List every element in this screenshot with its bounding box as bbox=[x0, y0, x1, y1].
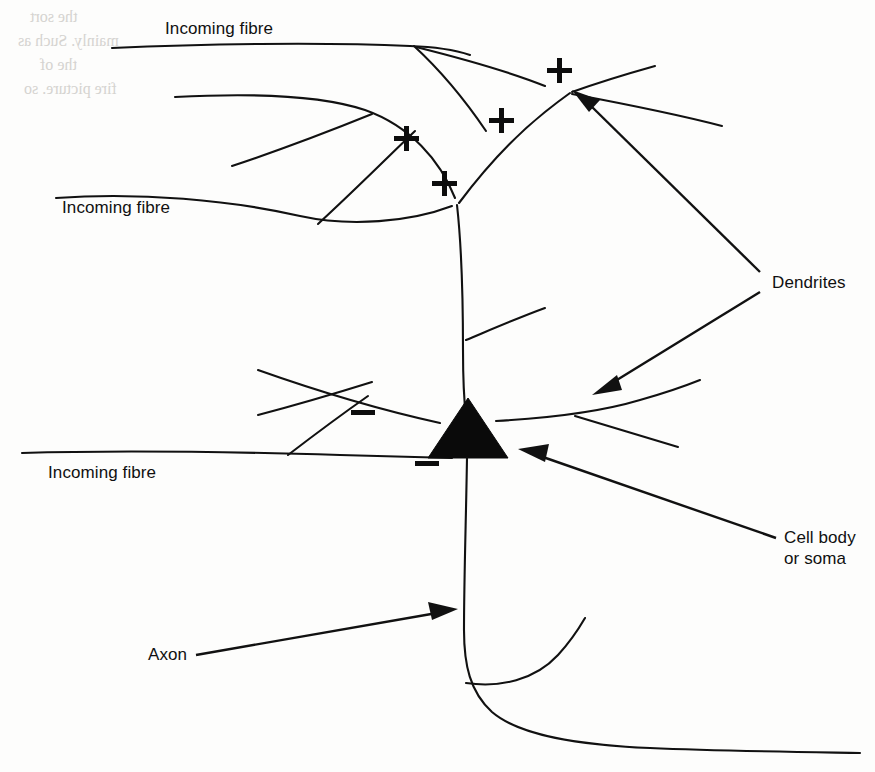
synapse-minus-1 bbox=[351, 410, 375, 415]
label-axon: Axon bbox=[148, 644, 187, 665]
dendrites-arrowhead-lower bbox=[592, 375, 622, 395]
dendrite-twig-upper-left bbox=[232, 114, 372, 166]
dendrites-leader-lower bbox=[612, 292, 760, 383]
soma-triangle bbox=[428, 398, 508, 458]
dendrite-upper-right-main bbox=[459, 93, 570, 203]
synapse-plus-2 bbox=[489, 108, 514, 133]
axon-path bbox=[464, 458, 860, 753]
axon-leader bbox=[196, 613, 437, 655]
neuron-drawing bbox=[0, 0, 875, 772]
dendrite-stub-trunk-right bbox=[466, 308, 545, 340]
axon-collateral-branch bbox=[466, 618, 585, 684]
cell-body-arrowhead bbox=[518, 444, 549, 462]
basal-dendrite-right-path bbox=[496, 380, 700, 421]
basal-dendrite-left-path bbox=[258, 370, 440, 423]
dendrite-fork-upper-limb bbox=[572, 66, 655, 92]
synapse-minus-2 bbox=[415, 461, 439, 466]
apical-trunk-path bbox=[457, 205, 466, 418]
label-incoming-fibre-bottom: Incoming fibre bbox=[48, 462, 156, 483]
label-incoming-fibre-top: Incoming fibre bbox=[165, 18, 273, 39]
neuron-diagram-figure: the sort mainly. Such as the of fire pic… bbox=[0, 0, 875, 772]
basal-fork-right-lower-limb bbox=[575, 416, 678, 447]
dendrite-branch-top-inner bbox=[414, 46, 486, 131]
dendrites-leader-upper bbox=[590, 105, 760, 272]
label-dendrites: Dendrites bbox=[772, 272, 846, 293]
incoming-fibre-lower-path bbox=[22, 452, 452, 458]
label-incoming-fibre-middle: Incoming fibre bbox=[62, 197, 170, 218]
axon-arrowhead bbox=[428, 602, 458, 620]
basal-twig-left-diagonal bbox=[288, 396, 368, 455]
synapse-plus-3 bbox=[547, 58, 572, 83]
label-cell-body-or-soma: Cell body or soma bbox=[784, 527, 856, 569]
cell-body-leader bbox=[540, 456, 776, 538]
incoming-fibre-upper-curve-path bbox=[175, 95, 455, 198]
dendrites-arrowhead-upper bbox=[572, 90, 600, 112]
dendrite-twig-middle-diagonal bbox=[318, 131, 415, 224]
